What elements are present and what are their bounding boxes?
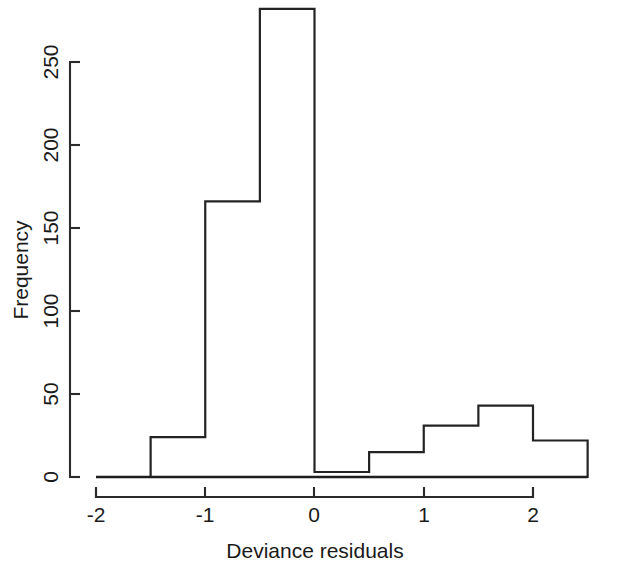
x-axis-title: Deviance residuals xyxy=(226,539,403,562)
y-tick-label-50: 50 xyxy=(39,382,62,405)
y-tick-label-100: 100 xyxy=(39,293,62,328)
y-axis xyxy=(70,62,80,477)
y-tick-labels: 0 50 100 150 200 250 xyxy=(39,44,62,482)
x-axis xyxy=(96,487,533,497)
histogram-figure: 0 50 100 150 200 250 Frequency -2 xyxy=(0,0,629,571)
x-tick-label-0: 0 xyxy=(308,503,320,526)
plot-canvas: 0 50 100 150 200 250 Frequency -2 xyxy=(0,0,629,571)
x-tick-label-1: 1 xyxy=(418,503,430,526)
y-tick-label-250: 250 xyxy=(39,44,62,79)
x-tick-label-2: 2 xyxy=(527,503,539,526)
y-tick-label-150: 150 xyxy=(39,210,62,245)
y-tick-label-0: 0 xyxy=(39,471,62,483)
y-tick-label-200: 200 xyxy=(39,127,62,162)
x-tick-label--2: -2 xyxy=(87,503,106,526)
histogram-bars xyxy=(96,9,588,477)
y-axis-title: Frequency xyxy=(9,220,32,320)
y-axis-spine xyxy=(70,62,78,477)
x-tick-labels: -2 -1 0 1 2 xyxy=(87,503,539,526)
x-tick-label--1: -1 xyxy=(196,503,215,526)
histogram-outline xyxy=(96,9,588,477)
